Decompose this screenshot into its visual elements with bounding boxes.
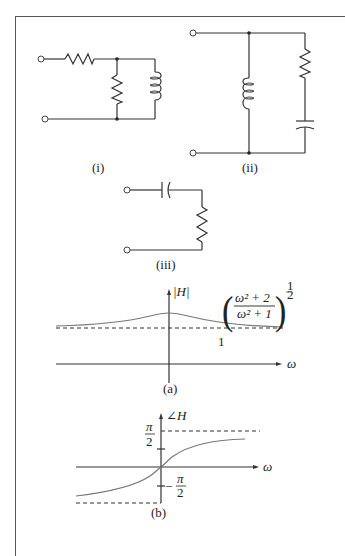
inductor-icon (243, 78, 254, 109)
circuit-iii-label: (iii) (156, 257, 176, 272)
terminal-top (124, 187, 130, 193)
arrow-right-icon (253, 465, 259, 469)
circuit-i: (i) (38, 54, 161, 175)
terminal-bottom (124, 247, 130, 253)
junction-dot (115, 117, 119, 121)
x-axis-label: ω (287, 356, 296, 371)
formula-exponent-den: 2 (287, 287, 294, 302)
y-axis-label: |H| (173, 284, 190, 299)
y-axis-label: ∠H (166, 408, 187, 423)
formula-denominator: ω² + 1 (237, 306, 272, 321)
plot-a: |H| ω 1 (a) ( ω² + 2 ω² + 1 ) 1 2 (56, 278, 296, 396)
terminal-bottom (190, 150, 196, 156)
svg-text:2: 2 (146, 434, 153, 449)
x-axis-label: ω (263, 459, 272, 474)
svg-text:(: ( (222, 289, 233, 333)
series-resistor-icon (65, 54, 94, 64)
resistor-icon (300, 49, 310, 78)
circuit-ii: (ii) (190, 30, 314, 175)
resistor-icon (197, 207, 207, 242)
svg-text:2: 2 (177, 485, 184, 500)
circuit-i-label: (i) (92, 160, 104, 175)
svg-text:−: − (165, 479, 172, 494)
plot-b: ∠H ω π 2 − π 2 (b) (76, 408, 272, 520)
terminal-top (38, 56, 44, 62)
arrow-up-icon (167, 289, 171, 295)
terminal-top (190, 30, 196, 36)
terminal-bottom (42, 116, 48, 122)
svg-text:π: π (177, 471, 184, 486)
asymptote-label: 1 (218, 334, 225, 349)
arrow-right-icon (276, 362, 282, 366)
inductor-icon (151, 72, 162, 100)
svg-text:π: π (146, 419, 153, 434)
plot-a-label: (a) (163, 381, 177, 396)
svg-text:): ) (275, 289, 286, 333)
formula-numerator: ω² + 2 (235, 290, 270, 305)
plot-b-label: (b) (151, 505, 166, 520)
upper-pi-over-2-label: π 2 (145, 419, 155, 449)
magnitude-formula: ( ω² + 2 ω² + 1 ) 1 2 (222, 278, 293, 333)
arrow-up-icon (159, 413, 163, 419)
circuit-ii-label: (ii) (242, 160, 258, 175)
circuit-iii: (iii) (124, 182, 207, 272)
lower-pi-over-2-label: − π 2 (165, 471, 186, 500)
junction-dot (247, 151, 251, 155)
shunt-resistor-icon (112, 75, 122, 104)
